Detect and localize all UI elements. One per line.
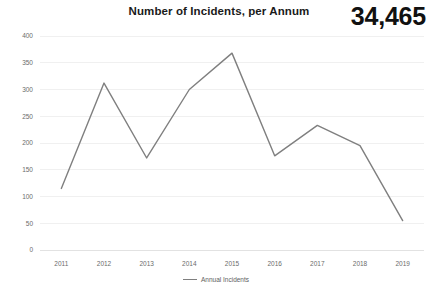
x-tick-2016: 2016 [267, 260, 282, 267]
y-axis-tick-labels: 050100150200250300350400 [22, 32, 33, 253]
y-tick-200: 200 [22, 139, 33, 146]
line-chart-svg: 050100150200250300350400 201120122013201… [0, 0, 432, 294]
x-tick-2019: 2019 [395, 260, 410, 267]
y-tick-350: 350 [22, 59, 33, 66]
x-tick-2011: 2011 [54, 260, 68, 267]
y-tick-150: 150 [22, 166, 33, 173]
legend-label-annual-incidents: Annual Incidents [201, 276, 249, 283]
y-tick-0: 0 [29, 246, 33, 253]
legend-swatch-annual-incidents [183, 279, 197, 281]
y-tick-50: 50 [26, 220, 34, 227]
x-tick-2018: 2018 [353, 260, 368, 267]
gridlines [40, 36, 424, 250]
y-tick-250: 250 [22, 113, 33, 120]
x-tick-2014: 2014 [182, 260, 197, 267]
chart-legend: Annual Incidents [0, 276, 432, 283]
x-tick-2013: 2013 [139, 260, 154, 267]
plot-area: 050100150200250300350400 201120122013201… [0, 0, 432, 294]
x-tick-2012: 2012 [97, 260, 112, 267]
y-tick-300: 300 [22, 86, 33, 93]
x-tick-2015: 2015 [225, 260, 240, 267]
x-tick-2017: 2017 [310, 260, 325, 267]
series-line-annual-incidents [61, 53, 402, 220]
x-axis-tick-labels: 201120122013201420152016201720182019 [54, 260, 410, 267]
y-tick-100: 100 [22, 193, 33, 200]
y-tick-400: 400 [22, 32, 33, 39]
incidents-chart-card: Number of Incidents, per Annum 34,465 05… [0, 0, 432, 294]
